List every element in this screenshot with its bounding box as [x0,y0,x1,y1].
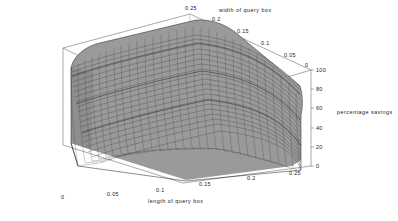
z-tick-label-40: 40 [316,125,323,131]
plot-root: 0.25 0.2 0.15 0.1 0.05 0 width of query … [0,0,398,221]
surface-plot-figure: 0.25 0.2 0.15 0.1 0.05 0 width of query … [0,0,398,221]
z-tick-label-80: 80 [316,86,323,92]
x-tick-label-3: 0.15 [199,181,211,187]
y-tick-label-1: 0.2 [212,16,221,22]
x-tick-label-4: 0.2 [247,175,256,181]
z-axis-title: percentage savings [337,109,393,115]
x-axis-title: length of query box [148,198,203,204]
y-tick-label-5: 0 [305,62,308,68]
x-tick-label-5: 0.25 [289,170,301,176]
y-axis-title: width of query box [218,7,272,13]
x-tick-label-2: 0.1 [156,187,165,193]
x-tick-label-1: 0.05 [107,191,119,197]
y-tick-label-3: 0.1 [261,40,270,46]
y-tick-label-2: 0.15 [237,28,249,34]
z-tick-label-0: 0 [316,163,319,169]
x-tick-label-0: 0 [61,194,64,200]
z-tick-label-100: 100 [316,67,326,73]
z-tick-label-20: 20 [316,144,323,150]
y-tick-label-0: 0.25 [185,5,197,11]
y-tick-label-4: 0.05 [284,52,296,58]
z-tick-label-60: 60 [316,105,323,111]
